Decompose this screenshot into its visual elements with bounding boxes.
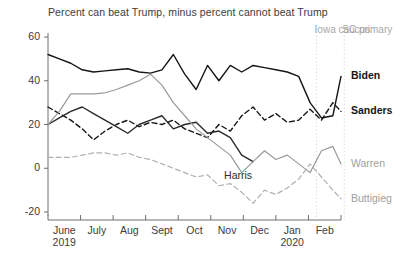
- chart-plot-area: [0, 0, 416, 262]
- x-tick-month: Sept: [151, 224, 173, 236]
- series-line-biden: [48, 55, 341, 118]
- series-label-warren: Warren: [351, 157, 385, 169]
- series-line-sanders: [48, 103, 341, 140]
- x-tick-month: Dec: [250, 224, 269, 236]
- x-axis-tick-label: Feb: [302, 224, 348, 236]
- series-label-biden: Biden: [351, 69, 380, 81]
- x-tick-month: Feb: [316, 224, 334, 236]
- x-tick-month: Oct: [186, 224, 202, 236]
- series-label-harris: Harris: [224, 169, 252, 181]
- y-axis-tick-label: 0: [10, 161, 40, 173]
- series-line-warren: [48, 74, 341, 172]
- x-tick-month: July: [87, 224, 106, 236]
- series-line-buttigieg: [48, 153, 341, 203]
- x-tick-year: 2020: [269, 236, 315, 248]
- series-line-harris: [48, 107, 253, 162]
- chart-container: Percent can beat Trump, minus percent ca…: [0, 0, 416, 262]
- x-tick-month: Aug: [120, 224, 139, 236]
- series-label-buttigieg: Buttigieg: [351, 192, 392, 204]
- y-axis-tick-label: -20: [10, 205, 40, 217]
- x-tick-month: Jan: [284, 224, 301, 236]
- x-tick-month: June: [53, 224, 76, 236]
- y-axis-tick-label: 60: [10, 30, 40, 42]
- event-label: SC primary: [342, 24, 392, 35]
- x-tick-month: Nov: [218, 224, 237, 236]
- y-axis-tick-label: 20: [10, 118, 40, 130]
- series-label-sanders: Sanders: [351, 104, 392, 116]
- x-tick-year: 2019: [41, 236, 87, 248]
- y-axis-tick-label: 40: [10, 74, 40, 86]
